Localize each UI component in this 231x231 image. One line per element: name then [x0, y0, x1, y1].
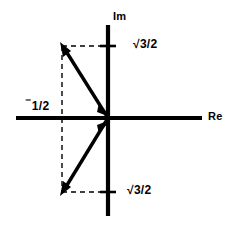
real-axis-label: Re: [208, 111, 223, 122]
diagram-canvas: [0, 0, 231, 231]
tick-label-sqrt3-over-2-positive: √3/2: [133, 38, 157, 50]
tick-label-sqrt3-over-2-negative: √3/2: [127, 184, 151, 196]
minus-sign-glyph: ⁻: [25, 95, 31, 109]
tick-label-negative-one-half-value: 1/2: [32, 99, 50, 113]
tick-label-negative-one-half: ⁻1/2: [25, 96, 49, 112]
imaginary-axis-label: Im: [113, 11, 126, 22]
complex-plane-diagram: Im Re √3/2 √3/2 ⁻1/2: [0, 0, 231, 231]
